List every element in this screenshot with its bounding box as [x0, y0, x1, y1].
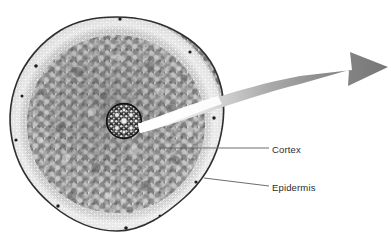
specimen-group: [0, 0, 391, 246]
figure-canvas: [0, 0, 391, 246]
figure-root-cross-section: Cortex Epidermis: [0, 0, 391, 246]
label-cortex: Cortex: [272, 144, 301, 155]
leader-line-epidermis: [204, 178, 269, 186]
label-epidermis: Epidermis: [272, 182, 316, 193]
